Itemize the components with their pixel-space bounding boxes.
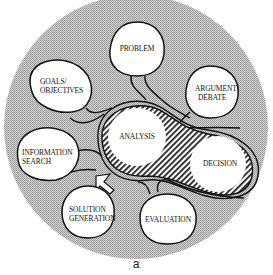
label-argument-2: DEBATE — [198, 93, 227, 102]
label-solution-1: SOLUTION — [69, 205, 106, 214]
label-analysis: ANALYSIS — [119, 132, 155, 141]
label-information-2: SEARCH — [22, 157, 52, 166]
label-goals-1: GOALS/ — [40, 77, 68, 86]
label-problem: PROBLEM — [120, 44, 155, 53]
label-argument-1: ARGUMENT/ — [195, 84, 240, 93]
label-solution-2: GENERATION — [69, 214, 116, 223]
label-decision: DECISION — [203, 159, 238, 168]
label-goals-2: OBJECTIVES — [40, 86, 83, 95]
diagram-canvas: PROBLEM GOALS/ OBJECTIVES ARGUMENT/ DEBA… — [0, 0, 273, 275]
label-information-1: INFORMATION — [22, 148, 73, 157]
figure-caption: a — [133, 257, 140, 271]
label-evaluation: EVALUATION — [145, 215, 192, 224]
